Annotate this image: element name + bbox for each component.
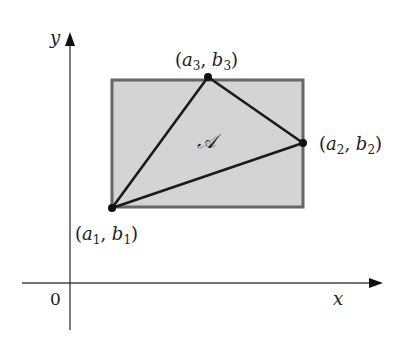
vertex-a3b3-label: (a3, b3) (175, 49, 238, 73)
origin-label: 0 (50, 289, 61, 309)
vertex-a2b2-label: (a2, b2) (319, 133, 382, 157)
vertex-a1b1-dot (108, 204, 116, 212)
vertex-a1b1-label: (a1, b1) (75, 223, 138, 247)
x-axis-label: x (333, 288, 343, 309)
vertex-a2b2-dot (299, 139, 307, 147)
y-axis-label: y (49, 27, 61, 48)
diagram-canvas: y x 0 𝒜 (a3, b3) (a2, b2) (a1, b1) (0, 0, 402, 344)
y-axis-arrow-icon (65, 32, 75, 46)
x-axis-arrow-icon (369, 278, 383, 288)
vertex-a3b3-dot (204, 73, 212, 81)
